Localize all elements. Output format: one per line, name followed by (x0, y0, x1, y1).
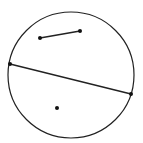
segment-endpoint-b (78, 29, 82, 33)
chord-endpoint-left (8, 62, 12, 66)
chord (10, 64, 131, 94)
interior-point (55, 106, 59, 110)
short-segment (40, 31, 80, 38)
circle-diagram (0, 0, 143, 143)
chord-endpoint-right (129, 92, 133, 96)
circle (8, 12, 134, 138)
segment-endpoint-a (38, 36, 42, 40)
points (8, 29, 133, 110)
segments (10, 31, 131, 94)
